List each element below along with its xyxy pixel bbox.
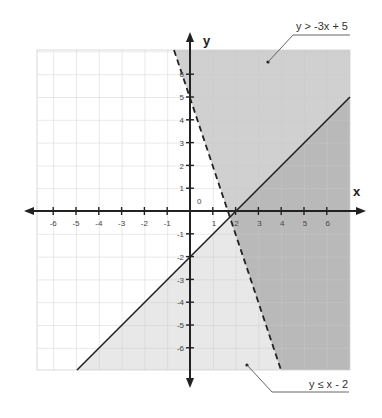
x-tick-label: 1 [212,219,217,228]
y-tick-label: 5 [180,93,185,102]
x-tick-label: 4 [280,219,285,228]
annotation-bottom-text: y ≤ x - 2 [309,378,348,390]
x-tick-label: 5 [303,219,308,228]
x-tick-label: 6 [326,219,331,228]
y-tick-label: -5 [177,321,185,330]
y-tick-label: 4 [180,116,185,125]
x-tick-label: -4 [95,219,103,228]
x-tick-label: 3 [257,219,262,228]
x-axis-label: x [353,184,361,199]
y-tick-label: -3 [177,276,185,285]
x-tick-label: -3 [118,219,126,228]
x-tick-label: -2 [141,219,149,228]
x-tick-label: -6 [50,219,58,228]
arrow-right-icon [356,207,366,215]
inequality-graph: -6 -5 -4 -3 -2 -1 1 2 3 4 5 6 6 5 4 3 2 … [0,0,382,418]
y-tick-label: 1 [180,184,185,193]
annotation-top-text: y > -3x + 5 [296,20,348,32]
y-tick-label: -2 [177,253,185,262]
y-tick-label: 6 [180,70,185,79]
y-tick-label: -1 [177,230,185,239]
x-tick-label: 2 [234,219,239,228]
y-axis-label: y [203,33,211,48]
y-tick-label: -4 [177,298,185,307]
y-tick-label: -6 [177,344,185,353]
x-tick-label: -1 [164,219,172,228]
origin-label: 0 [197,197,202,206]
arrow-left-icon [24,207,34,215]
arrow-up-icon [186,32,194,42]
y-tick-label: 3 [180,139,185,148]
y-tick-label: 2 [180,162,185,171]
x-tick-label: -5 [72,219,80,228]
arrow-down-icon [186,378,194,388]
